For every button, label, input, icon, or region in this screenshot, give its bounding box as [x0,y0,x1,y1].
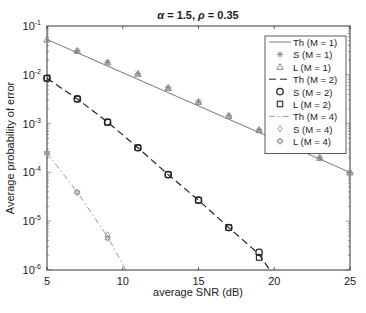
legend-label: S (M = 4) [293,124,332,135]
y-tick-label: 10-6 [23,263,42,276]
legend-label: S (M = 1) [293,49,332,60]
x-tick-label: 25 [344,275,356,287]
y-tick-label: 10-3 [23,117,42,130]
y-tick-label: 10-4 [23,165,42,178]
legend-label: Th (M = 1) [293,37,337,48]
legend-label: L (M = 1) [293,62,331,73]
y-axis-label: Average probability of error [4,81,16,214]
chart-title: α = 1.5, ρ = 0.35 [157,9,238,21]
x-tick-label: 20 [268,275,280,287]
legend-label: Th (M = 2) [293,74,337,85]
legend-label: L (M = 2) [293,99,331,110]
chart: α = 1.5, ρ = 0.35 10-110-210-310-410-510… [0,0,366,313]
legend-label: S (M = 2) [293,87,332,98]
y-tick-labels: 10-110-210-310-410-510-6 [23,19,42,276]
legend: Th (M = 1)S (M = 1)L (M = 1)Th (M = 2)S … [265,36,346,154]
x-tick-label: 5 [44,275,50,287]
legend-label: L (M = 4) [293,136,331,147]
y-tick-label: 10-5 [23,214,42,227]
y-tick-label: 10-1 [23,19,42,32]
y-tick-label: 10-2 [23,68,42,81]
x-tick-label: 10 [117,275,129,287]
legend-label: Th (M = 4) [293,111,337,122]
x-axis-label: average SNR (dB) [153,286,243,298]
